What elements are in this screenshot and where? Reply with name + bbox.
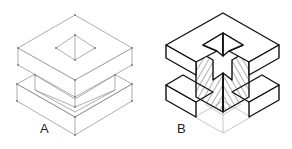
drawing-a: A [16, 14, 133, 136]
section-faces [196, 54, 249, 112]
label-a: A [40, 121, 49, 136]
drawing-b: B [166, 13, 279, 136]
isometric-drawings: A [0, 0, 292, 149]
label-b: B [177, 121, 186, 136]
top-slab-b [166, 13, 279, 75]
technical-drawing-figure: A [0, 0, 292, 149]
